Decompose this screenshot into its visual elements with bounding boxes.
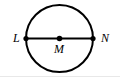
point-label-M: M (54, 43, 64, 55)
point-dot-N (90, 36, 95, 41)
point-label-L: L (13, 32, 20, 44)
point-dot-L (23, 36, 28, 41)
geometry-figure: L M N (0, 0, 120, 77)
point-dot-M (57, 36, 63, 42)
bottom-divider (0, 76, 120, 77)
point-label-N: N (101, 32, 109, 44)
